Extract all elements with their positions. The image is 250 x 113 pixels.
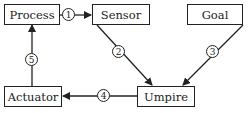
sensor-node: Sensor (92, 4, 150, 25)
actuator-node: Actuator (4, 86, 62, 107)
goal-node: Goal (187, 4, 243, 25)
process-node: Process (4, 4, 60, 25)
edge-label-3: 3 (206, 45, 219, 58)
umpire-node: Umpire (137, 86, 195, 107)
edge-label-1: 1 (62, 8, 75, 21)
edge-label-5: 5 (25, 53, 38, 66)
edge-label-4: 4 (97, 89, 110, 102)
edge-label-2: 2 (112, 45, 125, 58)
